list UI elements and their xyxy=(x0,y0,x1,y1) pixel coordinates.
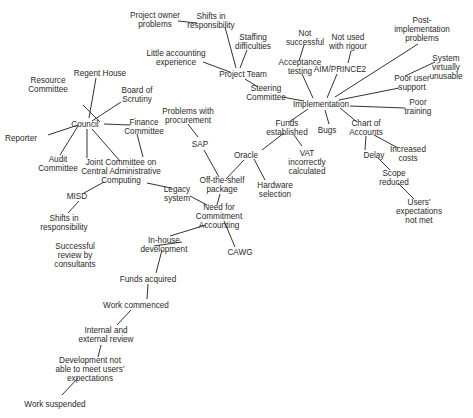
node-delay: Delay xyxy=(364,151,385,160)
node-cawg: CAWG xyxy=(227,248,252,257)
node-work-commenced: Work commenced xyxy=(103,301,169,310)
edge-line xyxy=(365,136,366,150)
node-shifts-resp-bottom: Shifts in responsibility xyxy=(40,214,87,232)
edge-line xyxy=(147,284,148,299)
node-need-commitment: Need for Commitment Accounting xyxy=(196,203,242,230)
node-poor-training: Poor training xyxy=(405,98,432,116)
node-board-scrutiny: Board of Scrutiny xyxy=(122,86,153,104)
edge-line xyxy=(204,150,219,177)
node-poor-user-support: Poor user support xyxy=(394,74,430,92)
node-internal-external: Internal and external review xyxy=(78,326,133,344)
node-shifts-resp-top: Shifts in responsibility xyxy=(187,12,234,30)
node-regent-house: Regent House xyxy=(74,69,126,78)
edge-line xyxy=(68,201,79,213)
edge-line xyxy=(92,129,120,161)
node-finance-committee: Finance Committee xyxy=(124,118,164,136)
node-project-team: Project Team xyxy=(219,70,267,79)
node-reporter: Reporter xyxy=(5,134,37,143)
edge-line xyxy=(92,102,121,121)
edge-line xyxy=(254,159,265,180)
edge-line xyxy=(137,134,143,157)
edge-line xyxy=(89,78,96,118)
node-post-impl: Post- implementation problems xyxy=(394,16,450,43)
node-audit-committee: Audit Committee xyxy=(38,155,78,173)
node-chart-of-accounts: Chart of Accounts xyxy=(349,119,383,137)
edge-line xyxy=(188,124,198,137)
node-bugs: Bugs xyxy=(318,126,337,135)
edge-line xyxy=(350,106,405,108)
node-resource-committee: Resource Committee xyxy=(28,76,68,94)
node-not-used-rigour: Not used with rigour xyxy=(329,33,367,51)
node-successful-review: Successful review by consultants xyxy=(54,242,95,269)
edge-line xyxy=(240,50,247,68)
node-hardware-selection: Hardware selection xyxy=(257,181,293,199)
node-dev-not-able: Development not able to meet users' expe… xyxy=(56,356,125,383)
node-project-owner-problems: Project owner problems xyxy=(130,11,180,29)
edge-line xyxy=(327,74,337,98)
edge-line xyxy=(117,310,131,325)
node-staffing-difficulties: Staffing difficulties xyxy=(235,33,271,51)
node-implementation: Implementation xyxy=(293,100,349,109)
node-not-successful: Not successful xyxy=(286,29,324,47)
node-vat: VAT incorrectly calculated xyxy=(288,149,325,176)
node-little-accounting: Little accounting experience xyxy=(146,49,205,67)
edge-line xyxy=(339,88,399,100)
node-funds-acquired: Funds acquired xyxy=(120,275,176,284)
edge-line xyxy=(348,51,351,63)
node-steering-committee: Steering Committee xyxy=(246,84,286,102)
node-council: Council xyxy=(71,120,98,129)
node-joint-committee: Joint Committee on Central Administrativ… xyxy=(81,158,161,185)
node-legacy-system: Legacy system xyxy=(164,185,190,203)
edge-line xyxy=(325,110,329,124)
node-system-unusable: System virtually unusable xyxy=(429,54,462,81)
node-oracle: Oracle xyxy=(234,151,258,160)
concept-map: Project owner problemsShifts in responsi… xyxy=(0,0,473,418)
node-off-the-shelf: Off-the-shelf package xyxy=(200,176,245,194)
node-sap: SAP xyxy=(192,140,208,149)
node-increased-costs: Increased costs xyxy=(390,145,426,163)
node-users-expectations: Users' expectations not met xyxy=(396,198,442,225)
node-scope-reduced: Scope reduced xyxy=(379,169,409,187)
edge-line xyxy=(302,74,313,98)
node-in-house: In-house development xyxy=(141,236,188,254)
node-misd: MISD xyxy=(67,192,87,201)
node-problems-procurement: Problems with procurement xyxy=(162,107,213,125)
node-funds-established: Funds established xyxy=(266,119,307,137)
node-aim-prince2: AIM/PRINCE2 xyxy=(314,65,366,74)
node-work-suspended: Work suspended xyxy=(24,400,85,409)
